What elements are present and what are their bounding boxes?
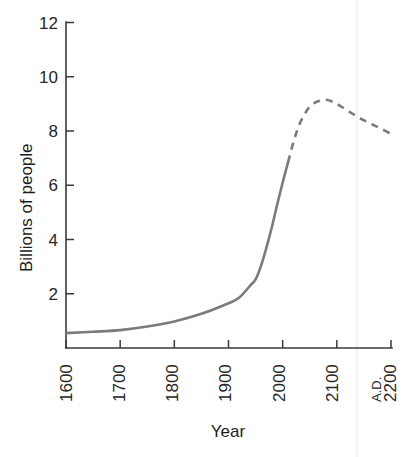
y-tick-label-6: 6 — [49, 176, 58, 195]
x-tick-label-1900: 1900 — [216, 364, 235, 402]
x-axis-era-label: A.D. — [369, 377, 384, 402]
x-tick-label-2000: 2000 — [270, 364, 289, 402]
y-tick-label-10: 10 — [39, 68, 58, 87]
population-growth-chart: 12 10 8 6 4 2 1600 1700 1800 1900 2000 2… — [0, 0, 414, 457]
y-tick-label-2: 2 — [49, 285, 58, 304]
y-tick-label-8: 8 — [49, 122, 58, 141]
x-axis-title: Year — [211, 422, 246, 441]
y-tick-marks — [66, 77, 74, 294]
y-tick-label-4: 4 — [49, 231, 58, 250]
series-historical-line — [66, 162, 288, 333]
x-tick-label-1600: 1600 — [57, 364, 76, 402]
chart-canvas: 12 10 8 6 4 2 1600 1700 1800 1900 2000 2… — [0, 0, 414, 457]
series-projection-line — [288, 100, 391, 162]
x-tick-label-1800: 1800 — [163, 364, 182, 402]
y-axis-title: Billions of people — [17, 143, 36, 272]
y-tick-label-12: 12 — [39, 14, 58, 33]
x-tick-marks — [66, 340, 391, 348]
x-tick-label-2100: 2100 — [323, 364, 342, 402]
x-tick-label-1700: 1700 — [110, 364, 129, 402]
